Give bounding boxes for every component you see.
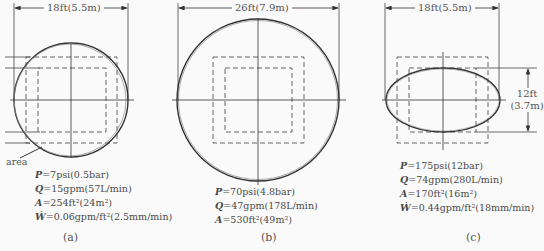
area-callout-label: area [6,156,28,167]
spec-pressure-b: P=70psi(4.8bar) [215,185,318,199]
width-dimension-label-c: 18ft(5.5m) [415,2,475,14]
caption-b: (b) [261,231,277,244]
caption-c: (c) [466,231,481,244]
spec-area-a: A=254ft²(24m²) [35,196,172,210]
panel-c-drawing [382,3,537,150]
spec-flow-c: Q=74gpm(280L/min) [400,173,534,187]
spec-density-c: Ẇ=0.44gpm/ft²(18mm/min) [400,201,534,215]
spec-flow-a: Q=15gpm(57L/min) [35,182,172,196]
spec-area-c: A=170ft²(16m²) [400,187,534,201]
height-dimension-label-c: 12ft (3.7m) [510,88,544,112]
specs-panel-c: P=175psi(12bar) Q=74gpm(280L/min) A=170f… [400,159,534,215]
height-dimension-m: (3.7m) [510,100,544,112]
specs-panel-a: P=7psi(0.5bar) Q=15gpm(57L/min) A=254ft²… [35,168,172,224]
panel-a-drawing [5,3,134,158]
panel-b-drawing [172,3,346,185]
specs-panel-b: P=70psi(4.8bar) Q=47gpm(178L/min) A=530f… [215,185,318,227]
height-dimension-ft: 12ft [510,88,544,100]
spec-area-b: A=530ft²(49m²) [215,213,318,227]
spec-pressure-a: P=7psi(0.5bar) [35,168,172,182]
spec-pressure-c: P=175psi(12bar) [400,159,534,173]
spec-flow-b: Q=47gpm(178L/min) [215,199,318,213]
spec-density-a: Ẇ=0.06gpm/ft²(2.5mm/min) [35,210,172,224]
caption-a: (a) [63,231,78,244]
width-dimension-label-a: 18ft(5.5m) [44,2,104,14]
width-dimension-label-b: 26ft(7.9m) [232,2,292,14]
